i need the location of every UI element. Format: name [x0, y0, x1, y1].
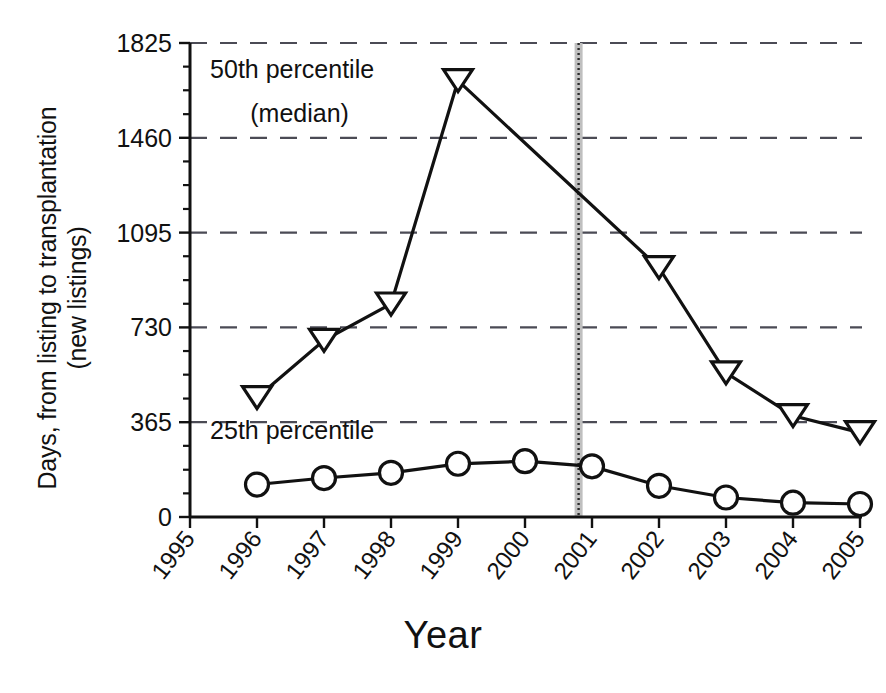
median-label-line2: (median)	[250, 99, 349, 127]
data-point-triangle[interactable]	[377, 293, 406, 315]
x-tick-label: 1998	[347, 525, 401, 584]
x-tick-label: 2001	[548, 525, 602, 584]
data-point-triangle[interactable]	[645, 257, 674, 279]
y-tick-label: 365	[130, 408, 172, 436]
x-tick-label: 2003	[682, 525, 736, 584]
data-point-circle[interactable]	[246, 473, 269, 496]
x-tick-label: 1997	[280, 525, 334, 584]
plot-canvas: 0365730109514601825 19951996199719981999…	[0, 0, 886, 693]
data-point-triangle[interactable]	[779, 405, 808, 427]
data-point-circle[interactable]	[782, 491, 805, 514]
x-tick-label: 1995	[146, 525, 200, 584]
data-point-triangle[interactable]	[846, 422, 875, 444]
data-point-circle[interactable]	[715, 486, 738, 509]
data-point-circle[interactable]	[849, 493, 872, 516]
p25-label: 25th percentile	[210, 416, 374, 444]
x-tick-label: 1999	[414, 525, 468, 584]
data-series-group	[243, 70, 875, 516]
data-point-circle[interactable]	[313, 467, 336, 490]
chart-figure: Days, from listing to transplantation (n…	[0, 0, 886, 693]
annotations-group: 50th percentile(median)25th percentile	[210, 55, 374, 444]
series-line-1	[257, 81, 860, 433]
policy-change-marker	[575, 43, 583, 517]
x-tick-label: 2000	[481, 525, 535, 584]
y-tick-label: 1460	[116, 124, 172, 152]
data-point-circle[interactable]	[581, 455, 604, 478]
x-tick-label: 2004	[749, 525, 803, 584]
data-point-triangle[interactable]	[243, 387, 272, 409]
y-tick-label: 1825	[116, 29, 172, 57]
data-point-circle[interactable]	[380, 461, 403, 484]
x-tick-label: 2002	[615, 525, 669, 584]
y-tick-label: 0	[158, 503, 172, 531]
data-point-circle[interactable]	[514, 450, 537, 473]
data-point-circle[interactable]	[447, 452, 470, 475]
x-tick-label: 2005	[816, 525, 870, 584]
y-tick-label: 730	[130, 313, 172, 341]
median-label-line1: 50th percentile	[210, 55, 374, 83]
y-tick-label: 1095	[116, 219, 172, 247]
x-tick-label: 1996	[213, 525, 267, 584]
y-tick-labels-group: 0365730109514601825	[116, 29, 172, 531]
data-point-circle[interactable]	[648, 474, 671, 497]
x-tick-labels-group: 1995199619971998199920002001200220032004…	[146, 525, 870, 584]
series-line-2	[257, 461, 860, 504]
